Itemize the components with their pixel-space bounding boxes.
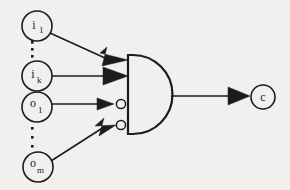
node-subscript-ik: k bbox=[37, 75, 42, 85]
node-label-o1: o bbox=[30, 96, 36, 110]
input-node-om: o m bbox=[23, 152, 53, 182]
input-node-ik: i k bbox=[22, 61, 52, 91]
arrowhead-ik bbox=[103, 67, 128, 85]
ellipsis-dot bbox=[31, 127, 34, 130]
node-subscript-i1: 1 bbox=[39, 25, 44, 35]
node-label-om: o bbox=[30, 156, 36, 170]
node-subscript-o1: 1 bbox=[38, 105, 43, 115]
ellipsis-dot bbox=[31, 55, 34, 58]
ellipsis-upper bbox=[31, 41, 34, 58]
arrowhead-i1 bbox=[100, 47, 128, 66]
input-node-i1: i 1 bbox=[22, 11, 52, 41]
input-wires bbox=[50, 33, 108, 161]
output-node-c: c bbox=[251, 85, 275, 109]
ellipsis-dot bbox=[31, 48, 34, 51]
arrowhead-output bbox=[228, 87, 250, 105]
inversion-bubble-om bbox=[116, 120, 125, 129]
ellipsis-dot bbox=[31, 136, 34, 139]
arrowhead-om bbox=[95, 118, 116, 136]
inversion-bubbles bbox=[116, 99, 125, 129]
arrowhead-o1 bbox=[97, 98, 114, 110]
inversion-bubble-o1 bbox=[116, 99, 125, 108]
ellipsis-lower bbox=[31, 127, 34, 148]
node-label-c: c bbox=[260, 90, 265, 104]
and-gate-body bbox=[128, 55, 172, 134]
input-node-o1: o 1 bbox=[22, 92, 52, 122]
node-circle-o1 bbox=[22, 92, 52, 122]
wire-i1 bbox=[50, 33, 105, 58]
wire-om bbox=[51, 127, 104, 161]
node-circle-i1 bbox=[22, 11, 52, 41]
figure-root: i 1 i k o 1 o m c bbox=[0, 0, 290, 190]
ellipsis-dot bbox=[31, 145, 34, 148]
ellipsis-dot bbox=[31, 41, 34, 44]
logic-gate-diagram: i 1 i k o 1 o m c bbox=[0, 0, 290, 190]
node-subscript-om: m bbox=[37, 165, 44, 175]
